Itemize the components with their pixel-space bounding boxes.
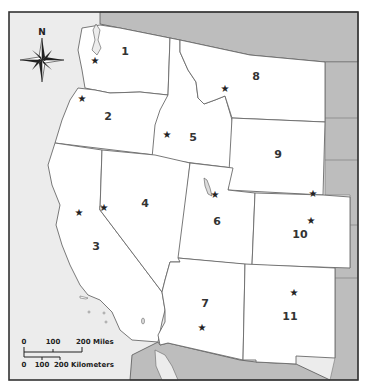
scale-miles-100: 100 (46, 338, 61, 346)
capital-star-icon: ★ (221, 83, 230, 94)
scale-miles-200: 200 Miles (76, 338, 114, 346)
capital-star-icon: ★ (100, 202, 109, 213)
state-label-4: 4 (141, 197, 149, 210)
capital-star-icon: ★ (91, 55, 100, 66)
state-label-6: 6 (213, 215, 221, 228)
capital-star-icon: ★ (163, 129, 172, 140)
state-label-1: 1 (121, 45, 129, 58)
state-label-11: 11 (282, 310, 297, 323)
island (105, 321, 107, 323)
state-label-2: 2 (104, 110, 112, 123)
capital-star-icon: ★ (309, 188, 318, 199)
north-label: N (38, 27, 46, 37)
western-us-map: 1★2★3★4★5★6★7★8★9★10★11★ N 0 100 200 Mil… (0, 0, 369, 389)
state-label-10: 10 (292, 228, 308, 241)
state-label-3: 3 (92, 240, 100, 253)
capital-star-icon: ★ (198, 322, 207, 333)
scale-km-0: 0 (22, 361, 27, 369)
capital-star-icon: ★ (78, 93, 87, 104)
capital-star-icon: ★ (211, 189, 220, 200)
state-label-7: 7 (201, 297, 209, 310)
capital-star-icon: ★ (75, 207, 84, 218)
state-label-9: 9 (274, 148, 282, 161)
scale-km-200: 200 Kilometers (54, 361, 114, 369)
capital-star-icon: ★ (290, 287, 299, 298)
capital-star-icon: ★ (307, 215, 316, 226)
scale-km-100: 100 (35, 361, 50, 369)
salton-sea (142, 318, 145, 324)
state-label-5: 5 (189, 131, 197, 144)
island (88, 311, 90, 313)
island (103, 312, 105, 314)
state-label-8: 8 (252, 70, 260, 83)
scale-miles-0: 0 (22, 338, 27, 346)
